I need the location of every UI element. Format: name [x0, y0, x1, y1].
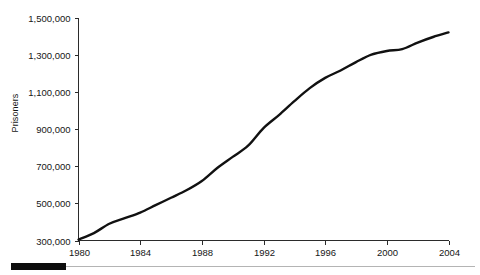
- y-tick-label: 900,000: [36, 124, 70, 135]
- footer-rule-bar: [11, 263, 66, 270]
- x-tick-label: 2000: [377, 247, 398, 258]
- y-tick-label: 500,000: [36, 198, 70, 209]
- x-tick-marks: [80, 241, 450, 245]
- y-tick-label: 700,000: [36, 161, 70, 172]
- y-tick-label: 300,000: [36, 236, 70, 247]
- line-chart-plot: 300,000500,000700,000900,0001,100,0001,3…: [0, 0, 480, 258]
- x-tick-label: 1984: [130, 247, 151, 258]
- chart-figure: Prisoners 300,000500,000700,000900,0001,…: [0, 0, 480, 275]
- x-tick-label: 1988: [192, 247, 213, 258]
- y-tick-label: 1,100,000: [28, 87, 70, 98]
- x-tick-label: 1996: [315, 247, 336, 258]
- data-line-prisoners: [79, 32, 449, 239]
- x-tick-labels: 1980198419881992199620002004: [69, 247, 460, 258]
- y-tick-label: 1,300,000: [28, 50, 70, 61]
- x-tick-label: 1980: [69, 247, 90, 258]
- x-tick-label: 2004: [439, 247, 460, 258]
- x-tick-label: 1992: [254, 247, 275, 258]
- y-tick-marks: [75, 19, 79, 242]
- y-tick-label: 1,500,000: [28, 13, 70, 24]
- footer-rule-thin: [66, 266, 475, 267]
- footer-rule: [0, 263, 480, 271]
- y-tick-labels: 300,000500,000700,000900,0001,100,0001,3…: [28, 13, 70, 247]
